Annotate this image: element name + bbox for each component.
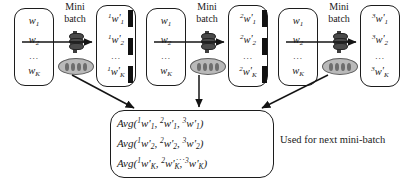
- weight-symbol: w1: [293, 16, 304, 28]
- weight-symbol: w1: [29, 16, 40, 28]
- worker-group-3: w1 w2 ... wK Mini batch 3w'1: [272, 0, 398, 96]
- mini-batch-label-line2: batch: [52, 13, 98, 25]
- weight-symbol: w2: [293, 35, 304, 47]
- vertical-ellipsis: ...: [111, 55, 121, 59]
- compute-node-oval-1: [58, 58, 94, 75]
- output-weight-symbol: 3w'2: [372, 34, 388, 47]
- database-cylinder-icon: [68, 33, 83, 51]
- output-weight-symbol: 2w'K: [239, 66, 256, 79]
- mini-batch-label: Mini batch: [52, 1, 98, 24]
- average-row: Avg(1w'1, 2w'1, 3w'1): [117, 117, 273, 131]
- separator-1: [128, 10, 133, 84]
- weight-symbol: w1: [161, 16, 172, 28]
- average-row: Avg(1w'K, 2w'K, 3w'K): [117, 157, 273, 171]
- separator-2: [262, 10, 267, 84]
- average-ellipsis: ...: [176, 152, 186, 162]
- mini-batch-label: Mini batch: [316, 1, 362, 24]
- vertical-ellipsis: ...: [161, 55, 171, 59]
- database-cylinder-icon: [200, 33, 215, 51]
- mini-batch-label: Mini batch: [184, 1, 230, 24]
- output-weight-symbol: 1w'1: [108, 13, 124, 26]
- mini-batch-label-line2: batch: [316, 13, 362, 25]
- used-for-next-minibatch-caption: Used for next mini-batch: [280, 134, 385, 145]
- mini-batch-label-line2: batch: [184, 13, 230, 25]
- mini-batch-label-line1: Mini: [316, 1, 362, 13]
- diagram-canvas: w1 w2 ... wK Mini batch 1w'1: [0, 0, 402, 184]
- average-row: Avg(1w'2, 2w'2, 3w'2): [117, 137, 273, 151]
- output-weight-symbol: 2w'1: [240, 13, 256, 26]
- weight-symbol: wK: [292, 66, 304, 78]
- weight-symbol: wK: [160, 66, 172, 78]
- vertical-ellipsis: ...: [375, 55, 385, 59]
- weight-symbol: w2: [29, 35, 40, 47]
- weight-symbol: w2: [161, 35, 172, 47]
- input-weight-box-1: w1 w2 ... wK: [14, 8, 54, 86]
- weight-symbol: wK: [28, 66, 40, 78]
- output-weight-symbol: 1w'2: [108, 34, 124, 47]
- compute-node-oval-3: [322, 58, 358, 75]
- output-weight-box-3: 3w'1 3w'2 ... 3w'K: [360, 5, 400, 87]
- vertical-ellipsis: ...: [29, 55, 39, 59]
- average-box: Avg(1w'1, 2w'1, 3w'1) Avg(1w'2, 2w'2, 3w…: [110, 110, 274, 178]
- vertical-ellipsis: ...: [293, 55, 303, 59]
- output-weight-symbol: 3w'K: [371, 66, 388, 79]
- output-weight-symbol: 1w'K: [107, 66, 124, 79]
- compute-node-oval-2: [190, 58, 226, 75]
- worker-group-2: w1 w2 ... wK Mini batch 2w'1: [140, 0, 266, 96]
- mini-batch-label-line1: Mini: [184, 1, 230, 13]
- worker-group-1: w1 w2 ... wK Mini batch 1w'1: [8, 0, 134, 96]
- database-cylinder-icon: [332, 33, 347, 51]
- output-weight-symbol: 3w'1: [372, 13, 388, 26]
- input-weight-box-3: w1 w2 ... wK: [278, 8, 318, 86]
- output-weight-symbol: 2w'2: [240, 34, 256, 47]
- vertical-ellipsis: ...: [243, 55, 253, 59]
- input-weight-box-2: w1 w2 ... wK: [146, 8, 186, 86]
- mini-batch-label-line1: Mini: [52, 1, 98, 13]
